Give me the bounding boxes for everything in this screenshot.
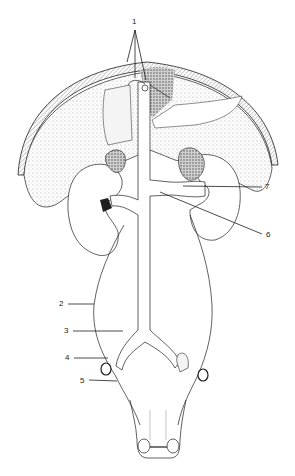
label-4: 4 (65, 354, 69, 362)
anatomical-diagram (0, 0, 295, 476)
label-5: 5 (80, 377, 84, 385)
label-3: 3 (64, 327, 68, 335)
label-7: 7 (265, 183, 269, 191)
label-1: 1 (132, 18, 136, 26)
label-2: 2 (59, 300, 63, 308)
bottom-structure (130, 400, 186, 458)
label-6: 6 (266, 231, 270, 239)
